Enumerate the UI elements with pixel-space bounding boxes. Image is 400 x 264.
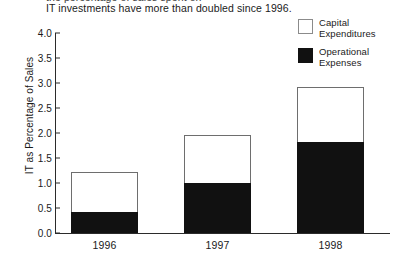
legend-item-capital-expenditures: Capital Expenditures xyxy=(298,18,398,39)
y-tick-mark xyxy=(55,183,60,184)
bar-segment-operational-1996 xyxy=(71,212,138,233)
legend-label-operational-line1: Operational xyxy=(319,46,369,57)
legend-label-capital-line1: Capital xyxy=(319,17,349,28)
caption-block: the percentage of sales spent on IT inve… xyxy=(0,0,400,18)
bar-1997 xyxy=(184,135,251,234)
x-tick-label-1996: 1996 xyxy=(71,239,138,251)
caption-text: IT investments have more than doubled si… xyxy=(46,2,292,14)
y-tick-label: 3.0 xyxy=(18,78,52,89)
legend-label-operational: Operational Expenses xyxy=(319,47,369,68)
legend-label-operational-line2: Expenses xyxy=(319,57,362,68)
y-tick-label: 2.0 xyxy=(18,128,52,139)
y-tick-label: 1.0 xyxy=(18,178,52,189)
bar-segment-operational-1997 xyxy=(184,183,251,233)
chart-legend: Capital Expenditures Operational Expense… xyxy=(298,18,398,76)
legend-label-capital-line2: Expenditures xyxy=(319,28,376,39)
legend-item-operational-expenses: Operational Expenses xyxy=(298,47,398,68)
y-tick-mark xyxy=(55,208,60,209)
y-tick-mark xyxy=(55,133,60,134)
y-tick-mark xyxy=(55,108,60,109)
bar-1996 xyxy=(71,172,138,233)
bar-1998 xyxy=(297,87,364,234)
bar-segment-capital-1996 xyxy=(71,172,138,212)
legend-label-capital: Capital Expenditures xyxy=(319,18,376,39)
y-tick-mark xyxy=(55,158,60,159)
y-tick-mark xyxy=(55,233,60,234)
y-tick-label: 2.5 xyxy=(18,103,52,114)
y-tick-label: 0.0 xyxy=(18,228,52,239)
bar-segment-capital-1997 xyxy=(184,135,251,184)
x-tick-label-1997: 1997 xyxy=(184,239,251,251)
y-tick-label: 0.5 xyxy=(18,203,52,214)
x-tick-label-1998: 1998 xyxy=(297,239,364,251)
y-axis-ticks: 0.00.51.01.52.02.53.03.54.0 xyxy=(14,0,52,264)
legend-swatch-icon-capital xyxy=(298,19,313,34)
y-tick-mark xyxy=(55,83,60,84)
chart-screenshot: the percentage of sales spent on IT inve… xyxy=(0,0,400,264)
y-tick-label: 4.0 xyxy=(18,28,52,39)
bar-segment-capital-1998 xyxy=(297,87,364,142)
y-tick-mark xyxy=(55,58,60,59)
legend-swatch-icon-operational xyxy=(298,48,313,63)
y-tick-label: 3.5 xyxy=(18,53,52,64)
y-tick-label: 1.5 xyxy=(18,153,52,164)
y-tick-mark xyxy=(55,33,60,34)
bar-segment-operational-1998 xyxy=(297,142,364,234)
x-axis-line xyxy=(55,233,390,234)
